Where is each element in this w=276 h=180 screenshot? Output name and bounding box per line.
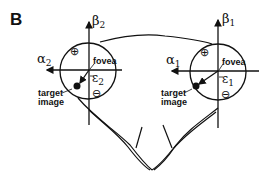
left-target-image (74, 83, 81, 90)
right-epsilon-label: ε1 (222, 73, 234, 88)
right-target-label: target image (161, 89, 187, 107)
head-outline-top (100, 35, 212, 44)
left-optic-outline-2 (89, 110, 150, 170)
right-target-image (193, 83, 200, 90)
right-error-vector (199, 71, 218, 84)
right-plus-sign: ⊕ (200, 47, 209, 58)
right-alpha-label: α1 (166, 53, 181, 69)
left-inner-tick (136, 127, 142, 148)
right-optic-outline-2 (154, 112, 216, 170)
left-minus-sign: ⊖ (92, 88, 101, 99)
left-fovea-label: fovea (93, 57, 117, 66)
panel-label: B (10, 11, 22, 28)
right-optic-outline (152, 108, 218, 170)
right-inner-tick (163, 125, 172, 148)
left-beta-label: β2 (92, 14, 105, 30)
left-error-vector (80, 70, 89, 83)
left-alpha-label: α2 (37, 52, 52, 68)
left-plus-sign: ⊕ (70, 46, 79, 57)
right-beta-label: β1 (222, 12, 235, 28)
left-epsilon-label: ε2 (92, 72, 104, 87)
right-fovea-label: fovea (222, 58, 246, 67)
right-minus-sign: ⊖ (221, 89, 230, 100)
left-target-label: target image (38, 89, 64, 107)
